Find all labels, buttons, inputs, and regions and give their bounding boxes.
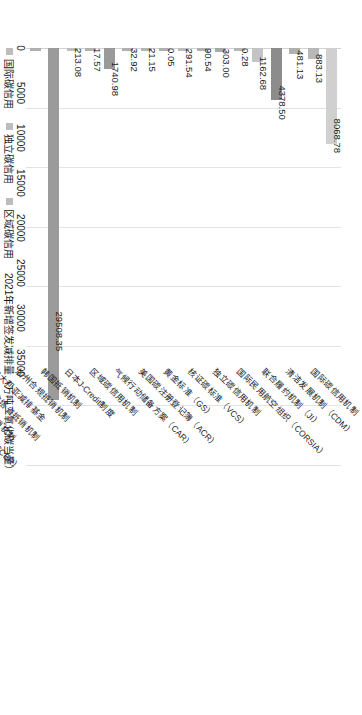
legend-label: 国际碳信用	[2, 59, 17, 109]
bar-value-label: 883.13	[314, 54, 325, 83]
legend-swatch	[6, 198, 13, 205]
legend-item[interactable]: 2021年新增签发减排量（万吨二氧化碳当量）	[2, 273, 17, 475]
bar-value-label: 8068.78	[332, 119, 343, 153]
bar-value-label: 0.05	[166, 48, 177, 67]
bar-value-label: 29508.35	[55, 312, 66, 352]
bar-value-label: 90.54	[203, 48, 214, 72]
bar-value-label: 303.00	[221, 49, 232, 78]
bar-value-label: 4378.50	[277, 85, 288, 119]
bar-value-label: 32.92	[129, 48, 140, 72]
bar-value-label: 291.54	[184, 49, 195, 78]
bar-value-label: 0.28	[240, 48, 251, 67]
chart-legend: 国际碳信用独立碳信用区域碳信用2021年新增签发减排量（万吨二氧化碳当量）	[2, 48, 17, 475]
category-axis-labels: 国际碳信用机制清洁发展机制（CDM）联合履约机制（JI）国际民用航空组织（COR…	[26, 367, 341, 617]
legend-swatch	[6, 123, 13, 130]
legend-label: 独立碳信用	[2, 134, 17, 184]
bar-value-label: 213.08	[73, 48, 84, 77]
bar-value-label: 21.15	[147, 48, 158, 72]
bar-value-label: 17.57	[92, 48, 103, 72]
legend-label: 区域碳信用	[2, 209, 17, 259]
legend-label: 2021年新增签发减排量（万吨二氧化碳当量）	[2, 273, 17, 475]
legend-item[interactable]: 国际碳信用	[2, 48, 17, 109]
legend-item[interactable]: 独立碳信用	[2, 123, 17, 184]
bar-value-label: 481.13	[295, 50, 306, 79]
legend-item[interactable]: 区域碳信用	[2, 198, 17, 259]
bar[interactable]	[30, 48, 41, 51]
bar-value-label: 1162.68	[258, 56, 269, 90]
legend-swatch	[6, 48, 13, 55]
bar-value-label: 1740.98	[110, 62, 121, 96]
